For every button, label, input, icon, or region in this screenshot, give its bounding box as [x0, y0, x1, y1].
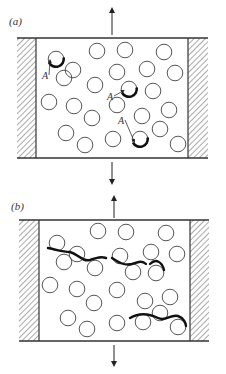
panel-a-particle [87, 77, 103, 93]
diagram-canvas: AAA [0, 0, 226, 374]
panel-a-defect-label: A [106, 91, 114, 102]
panel-b-particle [135, 314, 151, 330]
panel-a-particle [167, 65, 183, 81]
panel-b-particle [69, 281, 85, 297]
panel-a-right-grip [188, 38, 208, 158]
panel-b-particle [125, 264, 141, 280]
panel-b-particle [109, 282, 125, 298]
panel-a-particle [105, 131, 121, 147]
panel-a-particle [89, 43, 105, 59]
panel-a-particle [41, 94, 57, 110]
panel-a-particle [58, 125, 74, 141]
panel-b-particle [158, 225, 174, 241]
panel-a-particle [56, 70, 72, 86]
panel-b-particle [169, 246, 185, 262]
panel-a-particle [152, 121, 168, 137]
panel-a-particle [65, 62, 81, 78]
panel-a-particle [77, 137, 93, 153]
panel-a-particle [139, 61, 155, 77]
panel-a-particle [161, 102, 177, 118]
panel-a-defect-pointer [125, 120, 134, 141]
panel-b-particle [137, 293, 153, 309]
panel-a-interface-defect [122, 87, 137, 96]
panel-b-left-grip [19, 220, 39, 341]
panel-a-particle [145, 83, 161, 99]
panel-b-particle [87, 260, 103, 276]
panel-b-particle [109, 315, 125, 331]
panel-a-particle [134, 108, 150, 124]
panel-b-particle [60, 310, 76, 326]
panel-b-particle [148, 265, 164, 281]
panel-b-particle [79, 321, 95, 337]
panel-a-particle [117, 42, 133, 58]
panel-b-particle [86, 295, 102, 311]
panel-a-left-grip [17, 38, 36, 158]
panel-a-interface-defect [49, 57, 64, 66]
panel-a-particle [170, 136, 186, 152]
panel-a-particle [109, 64, 125, 80]
panel-a-particle [156, 44, 172, 60]
panel-b-particle [42, 277, 58, 293]
panel-b-particle [56, 254, 72, 270]
panel-a-defect-label: A [117, 115, 125, 126]
panel-b-particle [90, 223, 106, 239]
panel-b-particle [118, 224, 134, 240]
panel-b-particle [143, 244, 159, 260]
panel-a-defect-label: A [41, 70, 49, 81]
panel-a-particle [66, 98, 82, 114]
panel-a-interface-defect [133, 137, 148, 146]
panel-a-particle [84, 110, 100, 126]
panel-b-particle [162, 289, 178, 305]
panel-b-right-grip [190, 220, 209, 341]
